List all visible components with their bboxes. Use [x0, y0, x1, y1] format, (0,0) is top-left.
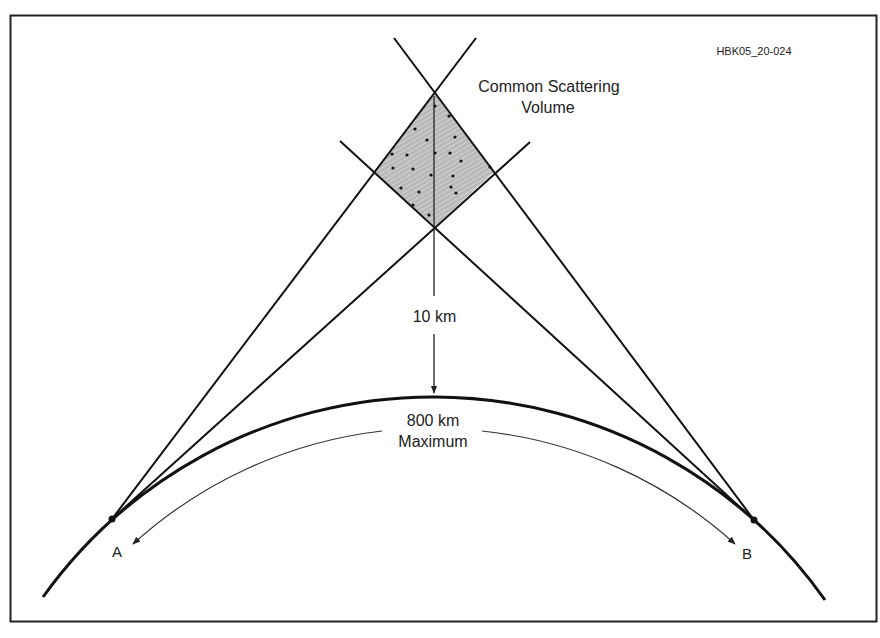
beam-a-lower: [112, 142, 530, 519]
distance-label-value: 800 km: [407, 412, 459, 429]
scatter-volume-label-line2: Volume: [521, 99, 574, 116]
station-a-label: A: [112, 543, 122, 560]
station-b-dot: [751, 517, 758, 524]
beam-b-lower: [340, 141, 754, 520]
distance-label-qualifier: Maximum: [398, 433, 467, 450]
scatter-volume-label-line1: Common Scattering: [478, 78, 619, 95]
station-a-dot: [109, 516, 116, 523]
distance-arrow-right: [482, 431, 735, 544]
figure-id-label: HBK05_20-024: [716, 45, 791, 57]
distance-arrow-left: [133, 431, 382, 544]
station-b-label: B: [742, 545, 752, 562]
height-label: 10 km: [413, 308, 457, 325]
tropospheric-scatter-diagram: HBK05_20-024: [0, 0, 880, 638]
